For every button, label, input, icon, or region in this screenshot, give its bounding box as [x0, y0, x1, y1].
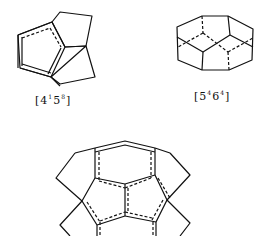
- label-mid: 6: [212, 90, 220, 103]
- cage-5-4-6-4-hidden: [178, 16, 253, 70]
- composite-cage-hidden: [87, 152, 170, 236]
- polyhedra-diagram: [0, 0, 267, 236]
- cage-4-1-5-8-drawing: [18, 12, 95, 86]
- composite-cage-drawing: [56, 141, 190, 236]
- label-close: ]: [66, 94, 71, 107]
- label-base: [4: [35, 94, 48, 107]
- cage-label-4-1-5-8: [4158]: [35, 93, 71, 107]
- cage-5-4-6-4-drawing: [177, 16, 253, 70]
- label-mid: 5: [53, 94, 61, 107]
- label-close: ]: [225, 90, 230, 103]
- cage-label-5-4-6-4: [5464]: [194, 89, 230, 103]
- label-base: [5: [194, 90, 207, 103]
